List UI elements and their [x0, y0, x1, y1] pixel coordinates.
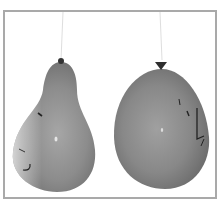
right-balloon-knot [155, 62, 167, 70]
left-balloon-knot [58, 58, 64, 64]
right-balloon [114, 62, 209, 189]
photo-frame: Black and white photo of two hanging bal… [3, 10, 217, 199]
left-string [61, 12, 63, 60]
left-highlight [55, 137, 58, 142]
balloons-photo [5, 12, 215, 197]
right-string [160, 12, 162, 60]
right-highlight [161, 128, 163, 132]
left-balloon [13, 58, 95, 192]
